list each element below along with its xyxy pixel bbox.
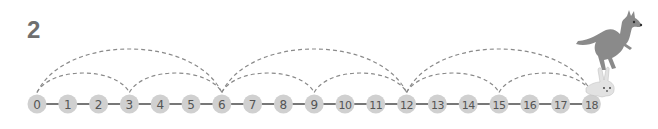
tick-0: 0 — [28, 95, 47, 114]
small-jump-arc — [37, 73, 129, 93]
number-line-diagram: 0123456789101112131415161718 — [0, 0, 658, 129]
svg-text:5: 5 — [187, 98, 195, 112]
svg-text:11: 11 — [369, 99, 382, 112]
svg-text:16: 16 — [523, 99, 536, 112]
tick-15: 15 — [490, 95, 509, 114]
svg-text:3: 3 — [126, 98, 134, 112]
tick-5: 5 — [182, 95, 201, 114]
tick-9: 9 — [305, 95, 324, 114]
svg-text:12: 12 — [400, 99, 413, 112]
svg-text:4: 4 — [156, 98, 164, 112]
svg-text:9: 9 — [310, 98, 318, 112]
svg-text:0: 0 — [33, 98, 41, 112]
svg-text:6: 6 — [218, 98, 226, 112]
large-jump-arc — [222, 49, 407, 93]
rabbit-icon — [586, 67, 614, 97]
svg-text:1: 1 — [64, 98, 72, 112]
svg-text:10: 10 — [339, 99, 352, 112]
tick-12: 12 — [397, 95, 416, 114]
tick-16: 16 — [520, 95, 539, 114]
jump-arcs — [37, 49, 591, 93]
tick-7: 7 — [243, 95, 262, 114]
tick-1: 1 — [58, 95, 77, 114]
svg-text:17: 17 — [554, 99, 567, 112]
tick-4: 4 — [151, 95, 170, 114]
tick-3: 3 — [120, 95, 139, 114]
tick-14: 14 — [459, 95, 478, 114]
tick-11: 11 — [366, 95, 385, 114]
svg-text:15: 15 — [493, 99, 506, 112]
kangaroo-icon — [576, 10, 642, 70]
small-jump-arc — [407, 73, 499, 93]
small-jump-arc — [314, 73, 406, 93]
large-jump-arc — [407, 49, 592, 93]
svg-text:14: 14 — [462, 99, 475, 112]
tick-18: 18 — [582, 95, 601, 114]
tick-13: 13 — [428, 95, 447, 114]
small-jump-arc — [499, 73, 591, 93]
number-line: 0123456789101112131415161718 — [28, 95, 601, 114]
svg-text:2: 2 — [95, 98, 103, 112]
tick-10: 10 — [336, 95, 355, 114]
svg-text:7: 7 — [249, 98, 257, 112]
tick-6: 6 — [212, 95, 231, 114]
tick-8: 8 — [274, 95, 293, 114]
svg-text:13: 13 — [431, 99, 444, 112]
tick-2: 2 — [89, 95, 108, 114]
svg-text:8: 8 — [280, 98, 288, 112]
tick-17: 17 — [551, 95, 570, 114]
small-jump-arc — [129, 73, 221, 93]
svg-text:18: 18 — [585, 99, 598, 112]
large-jump-arc — [37, 49, 222, 93]
small-jump-arc — [222, 73, 314, 93]
